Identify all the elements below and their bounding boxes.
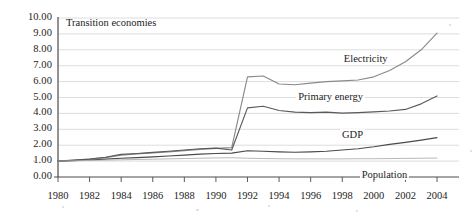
- series-label-electricity: Electricity: [342, 53, 390, 64]
- scan-speck: [268, 205, 270, 207]
- scan-speck: [33, 160, 35, 162]
- panel-title: Transition economies: [66, 17, 156, 28]
- y-axis-tick-label: 9.00: [6, 27, 52, 38]
- y-axis-tick-label: 10.00: [6, 11, 52, 22]
- scan-speck: [356, 210, 358, 212]
- y-axis-tick-label: 5.00: [6, 91, 52, 102]
- series-label-population: Population: [360, 169, 410, 180]
- y-axis-tick-label: 3.00: [6, 122, 52, 133]
- scan-speck: [449, 24, 451, 26]
- y-axis-tick-label: 0.00: [6, 170, 52, 181]
- x-axis-tick-label: 2004: [415, 190, 459, 201]
- y-axis-tick-label: 6.00: [6, 75, 52, 86]
- y-axis-tick-label: 8.00: [6, 43, 52, 54]
- chart-plot-area: [0, 0, 476, 218]
- series-label-primary-energy: Primary energy: [296, 91, 365, 102]
- y-axis-tick-label: 2.00: [6, 138, 52, 149]
- chart-container: Transition economies 0.001.002.003.004.0…: [0, 0, 476, 218]
- scan-speck: [196, 209, 199, 211]
- y-axis-tick-label: 7.00: [6, 59, 52, 70]
- y-axis-tick-label: 1.00: [6, 154, 52, 165]
- scan-speck: [62, 206, 64, 208]
- gridlines: [58, 18, 459, 161]
- scan-speck: [470, 150, 472, 152]
- y-axis-tick-label: 4.00: [6, 106, 52, 117]
- series-label-gdp: GDP: [340, 129, 365, 140]
- series-line-gdp: [58, 138, 437, 162]
